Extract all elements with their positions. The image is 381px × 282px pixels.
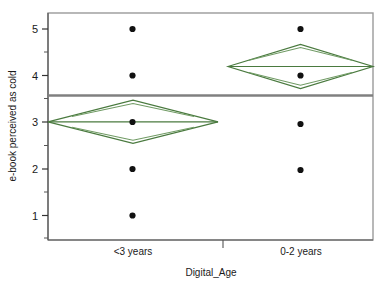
y-tick-label-2: 2: [32, 163, 38, 175]
data-point: [297, 121, 303, 127]
y-tick-label-5: 5: [32, 23, 38, 35]
data-point: [297, 26, 303, 32]
x-category-label-lt3years: <3 years: [114, 246, 153, 257]
y-tick-label-1: 1: [32, 210, 38, 222]
data-point: [297, 167, 303, 173]
data-point: [129, 72, 135, 78]
y-axis-title: e-book perceived as cold: [7, 70, 18, 181]
data-point: [129, 119, 135, 125]
y-axis-major-ticks: [42, 29, 48, 216]
scatter-plot-svg: 5 4 3 2 1 e-book perceived as cold: [0, 0, 381, 282]
data-point: [129, 212, 135, 218]
y-tick-label-4: 4: [32, 70, 38, 82]
y-axis: 5 4 3 2 1 e-book perceived as cold: [7, 13, 48, 240]
plot-background: [48, 13, 373, 240]
x-category-label-0to2years: 0-2 years: [280, 246, 322, 257]
x-axis: <3 years 0-2 years Digital_Age: [48, 240, 373, 278]
y-tick-label-3: 3: [32, 116, 38, 128]
chart-container: 5 4 3 2 1 e-book perceived as cold: [0, 0, 381, 282]
data-point: [129, 166, 135, 172]
data-point: [129, 26, 135, 32]
data-point: [297, 72, 303, 78]
x-axis-title: Digital_Age: [185, 267, 237, 278]
